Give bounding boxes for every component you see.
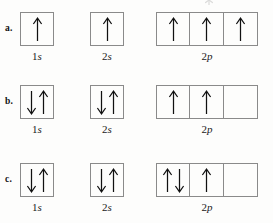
orbital-group-2p: 2p bbox=[156, 12, 258, 62]
orbital-group-2s: 2s bbox=[90, 12, 124, 62]
spin-up-arrow-icon bbox=[162, 168, 173, 193]
spin-down-arrow-icon bbox=[26, 168, 37, 193]
orbital-subshell-letter: s bbox=[108, 50, 112, 62]
orbital-subshell-letter: p bbox=[207, 123, 213, 135]
orbital-box-contents bbox=[190, 86, 223, 118]
orbital-label-2s: 2s bbox=[90, 51, 124, 62]
spin-up-arrow-icon bbox=[168, 17, 179, 42]
orbital-box-contents bbox=[21, 86, 53, 118]
spin-up-arrow-icon bbox=[201, 17, 212, 42]
orbital-box-contents bbox=[224, 164, 257, 196]
orbital-subshell-letter: s bbox=[38, 123, 42, 135]
spin-up-arrow-icon bbox=[235, 17, 246, 42]
orbital-box-contents bbox=[224, 13, 257, 45]
orbital-label-2p: 2p bbox=[156, 124, 258, 135]
orbital-box-contents bbox=[157, 86, 189, 118]
spin-up-arrow-icon bbox=[102, 17, 113, 42]
orbital-label-2s: 2s bbox=[90, 124, 124, 135]
row-label: a. bbox=[5, 23, 13, 33]
orbital-box-set bbox=[20, 12, 54, 46]
spin-down-arrow-icon bbox=[174, 168, 185, 193]
orbital-box[interactable] bbox=[90, 163, 124, 197]
orbital-box[interactable] bbox=[20, 163, 54, 197]
orbital-box-contents bbox=[190, 13, 223, 45]
orbital-group-2s: 2s bbox=[90, 163, 124, 213]
orbital-box[interactable] bbox=[190, 12, 224, 46]
orbital-subshell-letter: s bbox=[108, 123, 112, 135]
spin-up-arrow-icon bbox=[38, 168, 49, 193]
spin-up-arrow-icon bbox=[168, 90, 179, 115]
orbital-subshell-letter: s bbox=[38, 50, 42, 62]
row-label: c. bbox=[5, 174, 12, 184]
orbital-box[interactable] bbox=[156, 85, 190, 119]
orbital-group-1s: 1s bbox=[20, 163, 54, 213]
orbital-box-set bbox=[156, 12, 258, 46]
orbital-subshell-letter: s bbox=[38, 201, 42, 213]
orbital-box[interactable] bbox=[90, 12, 124, 46]
orbital-label-2s: 2s bbox=[90, 202, 124, 213]
orbital-box-contents bbox=[91, 13, 123, 45]
orbital-box[interactable] bbox=[156, 12, 190, 46]
orbital-box-set bbox=[20, 163, 54, 197]
orbital-group-2p: 2p bbox=[156, 85, 258, 135]
clipped-arrow-artifact bbox=[201, 0, 217, 5]
orbital-box-contents bbox=[91, 164, 123, 196]
spin-up-arrow-icon bbox=[38, 90, 49, 115]
orbital-group-1s: 1s bbox=[20, 85, 54, 135]
orbital-label-1s: 1s bbox=[20, 124, 54, 135]
orbital-label-2p: 2p bbox=[156, 51, 258, 62]
orbital-box-contents bbox=[224, 86, 257, 118]
orbital-box[interactable] bbox=[20, 12, 54, 46]
spin-up-arrow-icon bbox=[201, 168, 212, 193]
orbital-box[interactable] bbox=[190, 163, 224, 197]
orbital-box-set bbox=[90, 85, 124, 119]
orbital-box[interactable] bbox=[90, 85, 124, 119]
orbital-box[interactable] bbox=[20, 85, 54, 119]
spin-up-arrow-icon bbox=[32, 17, 43, 42]
orbital-subshell-letter: s bbox=[108, 201, 112, 213]
orbital-box-contents bbox=[21, 13, 53, 45]
spin-up-arrow-icon bbox=[108, 168, 119, 193]
spin-down-arrow-icon bbox=[26, 90, 37, 115]
orbital-box-set bbox=[156, 163, 258, 197]
orbital-box-contents bbox=[157, 13, 189, 45]
orbital-box[interactable] bbox=[190, 85, 224, 119]
orbital-group-1s: 1s bbox=[20, 12, 54, 62]
orbital-subshell-letter: p bbox=[207, 201, 213, 213]
orbital-box-contents bbox=[157, 164, 189, 196]
row-label: b. bbox=[5, 96, 13, 106]
orbital-subshell-letter: p bbox=[207, 50, 213, 62]
orbital-box-set bbox=[90, 163, 124, 197]
orbital-box-contents bbox=[190, 164, 223, 196]
spin-down-arrow-icon bbox=[96, 90, 107, 115]
orbital-group-2s: 2s bbox=[90, 85, 124, 135]
orbital-box-set bbox=[90, 12, 124, 46]
orbital-group-2p: 2p bbox=[156, 163, 258, 213]
orbital-label-1s: 1s bbox=[20, 202, 54, 213]
orbital-label-2p: 2p bbox=[156, 202, 258, 213]
spin-up-arrow-icon bbox=[108, 90, 119, 115]
spin-up-arrow-icon bbox=[201, 90, 212, 115]
orbital-box[interactable] bbox=[156, 163, 190, 197]
spin-down-arrow-icon bbox=[96, 168, 107, 193]
orbital-box[interactable] bbox=[224, 85, 258, 119]
orbital-box-contents bbox=[21, 164, 53, 196]
orbital-box-set bbox=[156, 85, 258, 119]
orbital-box[interactable] bbox=[224, 163, 258, 197]
orbital-box-set bbox=[20, 85, 54, 119]
orbital-box-contents bbox=[91, 86, 123, 118]
orbital-box[interactable] bbox=[224, 12, 258, 46]
orbital-label-1s: 1s bbox=[20, 51, 54, 62]
